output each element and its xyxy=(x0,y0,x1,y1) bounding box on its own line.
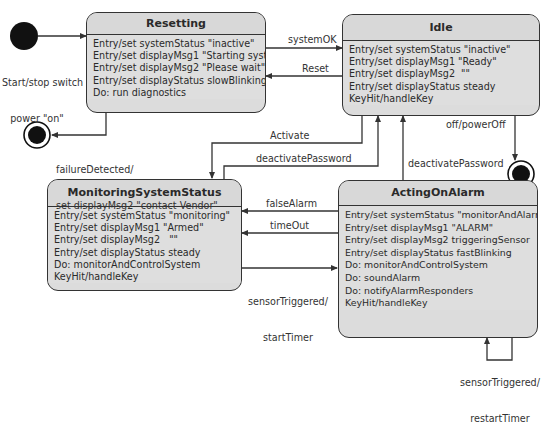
state-acting-on-alarm[interactable]: ActingOnAlarm Entry/set systemStatus "mo… xyxy=(338,180,538,338)
action: Entry/set displayStatus slowBlinking xyxy=(93,75,265,87)
transition-label-system-ok: systemOK xyxy=(288,34,337,46)
action: Entry/set displayMsg1 "Armed" xyxy=(54,222,241,234)
action: Do: run diagnostics xyxy=(93,87,265,99)
action: Entry/set systemStatus "inactive" xyxy=(93,38,265,50)
sensor-label-line2: startTimer xyxy=(240,332,336,344)
self-sensor-label-line1: sensorTriggered/ xyxy=(452,377,548,389)
state-actions: Entry/set systemStatus "inactive" Entry/… xyxy=(343,41,539,105)
transition-label-activate: Activate xyxy=(270,130,309,142)
initial-label-line2: power "on" xyxy=(2,113,72,125)
action: Entry/set displayMsg1 "Starting system" xyxy=(93,50,265,62)
action: Do: notifyAlarmResponders xyxy=(345,285,537,298)
transition-label-self-sensor-triggered: sensorTriggered/ restartTimer xyxy=(452,353,548,426)
action: Entry/set displayMsg2 "" xyxy=(54,234,241,246)
failure-label-line2: set displayMsg2 "contact Vendor" xyxy=(56,200,218,212)
action: Entry/set systemStatus "monitorAndAlarm" xyxy=(345,209,537,222)
action: Entry/set displayMsg2 triggeringSensor xyxy=(345,234,537,247)
state-title: Idle xyxy=(343,15,539,41)
action: Entry/set displayMsg1 "Ready" xyxy=(349,56,539,68)
transition-label-failure-detected: failureDetected/ set displayMsg2 "contac… xyxy=(56,140,218,224)
action: Do: monitorAndControlSystem xyxy=(54,259,241,271)
action: Do: soundAlarm xyxy=(345,272,537,285)
initial-state-dot xyxy=(10,22,38,50)
transition-label-sensor-triggered: sensorTriggered/ startTimer xyxy=(240,272,336,356)
failure-label-line1: failureDetected/ xyxy=(56,164,218,176)
state-actions: Entry/set systemStatus "inactive" Entry/… xyxy=(87,35,265,99)
state-title: ActingOnAlarm xyxy=(339,181,537,206)
action: KeyHit/handleKey xyxy=(349,93,539,105)
action: Entry/set displayMsg2 "" xyxy=(349,68,539,80)
initial-label-line1: Start/stop switch xyxy=(2,77,72,89)
action: KeyHit/handleKey xyxy=(345,297,537,310)
action: Entry/set displayStatus steady xyxy=(349,81,539,93)
transition-label-deactivate-password-monitoring: deactivatePassword xyxy=(256,153,352,165)
transition-label-power-off: off/powerOff xyxy=(446,119,506,131)
sensor-label-line1: sensorTriggered/ xyxy=(240,296,336,308)
initial-state-label: Start/stop switch power "on" xyxy=(2,53,72,137)
transition-label-reset: Reset xyxy=(302,63,329,75)
state-idle[interactable]: Idle Entry/set systemStatus "inactive" E… xyxy=(342,14,540,116)
action: Entry/set displayStatus steady xyxy=(54,247,241,259)
transition-label-deactivate-password-acting: deactivatePassword xyxy=(408,158,504,170)
transition-label-false-alarm: falseAlarm xyxy=(266,198,317,210)
action: Entry/set displayStatus fastBlinking xyxy=(345,247,537,260)
action: Entry/set systemStatus "inactive" xyxy=(349,44,539,56)
state-resetting[interactable]: Resetting Entry/set systemStatus "inacti… xyxy=(86,12,266,113)
action: Entry/set displayMsg2 "Please wait" xyxy=(93,62,265,74)
state-actions: Entry/set systemStatus "monitorAndAlarm"… xyxy=(339,206,537,310)
self-sensor-label-line2: restartTimer xyxy=(452,413,548,425)
transition-label-time-out: timeOut xyxy=(270,220,309,232)
action: Entry/set displayMsg1 "ALARM" xyxy=(345,222,537,235)
action: Do: monitorAndControlSystem xyxy=(345,259,537,272)
state-title: Resetting xyxy=(87,13,265,35)
action: KeyHit/handleKey xyxy=(54,271,241,283)
